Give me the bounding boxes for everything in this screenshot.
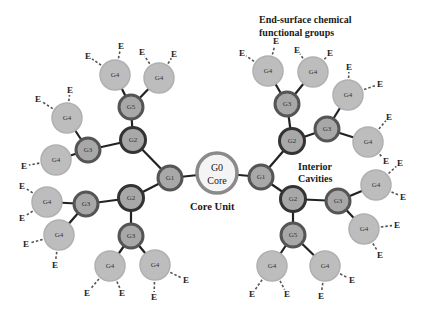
end-group-link [26, 189, 32, 193]
node-label: G4 [111, 71, 120, 79]
node-g4: G4 [32, 187, 62, 217]
end-group-link [168, 58, 171, 63]
node-label: G4 [63, 114, 72, 122]
node-label: G1 [166, 174, 175, 182]
end-group-link [389, 166, 397, 173]
node-label: G4 [360, 225, 369, 233]
core-unit-annotation: Core Unit [190, 201, 235, 212]
node-g4: G4 [333, 80, 363, 110]
end-group-link [392, 192, 399, 195]
node-label: G5 [289, 231, 298, 239]
end-group-label: E [67, 85, 73, 95]
node-label: G4 [344, 91, 353, 99]
end-group-link [92, 59, 101, 65]
node-label: G3 [323, 125, 332, 133]
end-group-link [69, 95, 70, 101]
end-groups-annotation-line2: functional groups [259, 27, 334, 38]
node-label: G4 [264, 67, 273, 75]
end-group-label: E [284, 289, 290, 299]
node-label: G3 [283, 100, 292, 108]
node-g4: G4 [144, 63, 174, 93]
end-group-link [31, 239, 43, 242]
node-g3: G3 [74, 192, 98, 216]
core-label-gen: G0 [211, 162, 223, 173]
core-label-name: Core [207, 175, 227, 186]
node-label: G2 [129, 136, 138, 144]
end-group-label: E [377, 250, 383, 260]
end-group-label: E [383, 156, 389, 166]
end-group-link [300, 54, 303, 58]
end-groups-annotation-line1: End-surface chemical [259, 14, 352, 25]
node-g4: G4 [353, 127, 383, 157]
end-group-label: E [84, 288, 90, 298]
core-circle [197, 153, 237, 193]
end-group-label: E [35, 94, 41, 104]
node-label: G3 [82, 200, 91, 208]
node-g4: G4 [310, 251, 340, 281]
node-label: G5 [127, 103, 136, 111]
node-g4: G4 [253, 56, 283, 86]
end-group-link [246, 56, 254, 61]
node-g4: G4 [52, 103, 82, 133]
end-group-label: E [386, 112, 392, 122]
end-group-label: E [327, 48, 333, 58]
core-node: G0 Core [197, 153, 237, 193]
end-group-link [255, 280, 262, 290]
node-g3: G3 [275, 92, 299, 116]
node-g4: G4 [361, 170, 391, 200]
end-group-label: E [349, 275, 355, 285]
node-label: G2 [288, 137, 297, 145]
node-g2: G2 [119, 186, 144, 211]
cavities-annotation-line2: Cavities [298, 173, 333, 184]
node-g3: G3 [76, 138, 100, 162]
end-group-link [56, 252, 57, 260]
node-g4: G4 [140, 250, 170, 280]
node-g4: G4 [44, 220, 74, 250]
end-group-link [340, 274, 347, 278]
node-label: G1 [257, 173, 266, 181]
end-group-label: E [118, 41, 124, 51]
node-g1: G1 [158, 166, 182, 190]
cavities-annotation-line1: Interior [298, 161, 332, 172]
dendrimer-diagram: G1G2G2G5G3G3G3G4G4G4G4G4G4G4G4G1G2G2G3G3… [0, 0, 422, 311]
node-label: G4 [309, 68, 318, 76]
node-label: G2 [127, 194, 136, 202]
node-label: G4 [155, 74, 164, 82]
node-label: G2 [289, 195, 298, 203]
end-group-label: E [394, 220, 400, 230]
node-g4: G4 [95, 251, 125, 281]
end-group-label: E [397, 158, 403, 168]
end-group-link [364, 86, 375, 90]
end-group-link [26, 211, 32, 215]
end-group-link [29, 163, 39, 165]
node-label: G4 [151, 261, 160, 269]
node-label: G4 [364, 138, 373, 146]
end-group-link [145, 56, 150, 64]
node-g5: G5 [119, 95, 143, 119]
end-group-label: E [21, 161, 27, 171]
node-label: G4 [43, 198, 52, 206]
end-group-label: E [119, 288, 125, 298]
end-group-label: E [249, 289, 255, 299]
node-label: G3 [84, 146, 93, 154]
node-label: G3 [334, 197, 343, 205]
node-g2: G2 [121, 128, 146, 153]
end-group-label: E [400, 192, 406, 202]
node-g4: G4 [41, 145, 71, 175]
node-g3: G3 [119, 224, 143, 248]
end-group-label: E [19, 181, 25, 191]
node-label: G4 [106, 262, 115, 270]
node-g3: G3 [315, 117, 339, 141]
node-g2: G2 [281, 187, 306, 212]
node-g4: G4 [100, 60, 130, 90]
end-group-label: E [52, 260, 58, 270]
end-group-link [170, 272, 181, 277]
end-group-link [322, 283, 323, 291]
end-group-link [118, 51, 120, 58]
end-group-label: E [377, 79, 383, 89]
node-g3: G3 [326, 189, 350, 213]
node-label: G4 [321, 262, 330, 270]
end-group-label: E [139, 47, 145, 57]
node-g2: G2 [280, 129, 305, 154]
node-label: G3 [127, 232, 136, 240]
